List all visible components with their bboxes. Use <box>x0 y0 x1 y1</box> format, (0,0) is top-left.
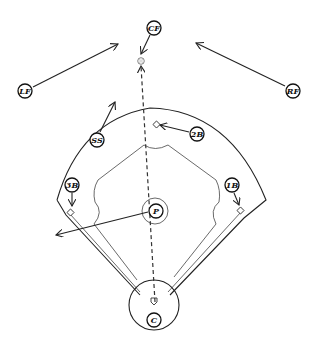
position-rf: RF <box>286 84 301 98</box>
lf-arrow <box>33 44 118 87</box>
position-ss-label: SS <box>91 135 103 145</box>
position-3b-label: 3B <box>66 180 79 190</box>
position-1b: 1B <box>225 178 239 192</box>
position-ss: SS <box>90 133 104 147</box>
first-base-line <box>168 212 241 292</box>
first-base <box>237 207 244 214</box>
position-cf: CF <box>147 21 161 35</box>
position-c: C <box>147 313 161 327</box>
baseball-icon <box>138 58 145 65</box>
second-base <box>153 121 160 128</box>
third-base-line <box>70 214 140 292</box>
infield-dirt-outline <box>57 108 266 295</box>
position-c-label: C <box>151 315 158 325</box>
ss-arrow <box>100 102 115 132</box>
position-p: P <box>149 204 163 218</box>
position-p-label: P <box>152 206 160 216</box>
position-rf-label: RF <box>286 86 301 96</box>
ball-flight-path <box>141 66 155 302</box>
1b-arrow <box>234 193 239 205</box>
position-cf-label: CF <box>148 23 161 33</box>
position-1b-label: 1B <box>226 180 239 190</box>
2b-arrow <box>160 125 189 132</box>
position-lf: LF <box>18 84 32 98</box>
cf-arrow <box>141 35 150 54</box>
position-3b: 3B <box>65 178 79 192</box>
position-lf-label: LF <box>18 86 32 96</box>
third-base <box>67 209 74 216</box>
rf-arrow <box>196 43 285 86</box>
position-2b-label: 2B <box>190 129 204 139</box>
position-2b: 2B <box>190 127 204 141</box>
field-outline <box>57 108 266 330</box>
baseball-field-diagram: CF LF RF SS 2B 3B 1B P C <box>0 0 322 348</box>
home-plate <box>151 298 157 305</box>
